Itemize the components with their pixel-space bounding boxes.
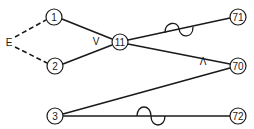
node-label: 72 <box>232 111 244 122</box>
node-label: 3 <box>52 111 58 122</box>
sine-wave-icon <box>165 23 193 36</box>
node-71[interactable]: 71 <box>230 9 246 25</box>
edge-e-to-1 <box>15 20 46 37</box>
node-label: 1 <box>51 12 57 23</box>
and-gate-label: Λ <box>200 56 207 67</box>
or-gate-label: V <box>93 36 100 47</box>
node-3[interactable]: 3 <box>47 108 63 124</box>
node-label: 2 <box>52 61 58 72</box>
e-label: E <box>6 37 13 48</box>
edge-e-to-2 <box>15 47 47 63</box>
edge-11-to-70 <box>128 44 230 64</box>
node-70[interactable]: 70 <box>230 58 246 74</box>
edge-2-to-11 <box>63 45 112 64</box>
node-label: 11 <box>115 37 126 48</box>
network-diagram: 1 2 11 71 70 3 72 E V Λ <box>0 0 254 129</box>
edge-1-to-11 <box>62 19 112 39</box>
node-label: 70 <box>232 61 244 72</box>
node-2[interactable]: 2 <box>47 58 63 74</box>
node-72[interactable]: 72 <box>230 108 246 124</box>
node-11[interactable]: 11 <box>112 34 128 50</box>
node-1[interactable]: 1 <box>46 9 62 25</box>
node-label: 71 <box>232 12 244 23</box>
